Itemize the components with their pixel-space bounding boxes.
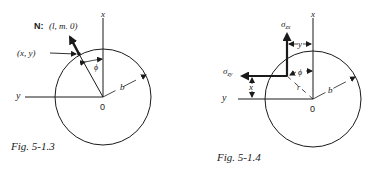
- sigma-zy-label: σzy: [223, 66, 233, 77]
- point-xy-label: (x, y): [17, 48, 35, 58]
- dimension-x-label: x: [248, 82, 253, 92]
- figure-caption-5-1-3: Fig. 5-1.3: [10, 140, 55, 152]
- figure-5-1-4: x y 0 ϕ r b y x σzx σzy: [221, 9, 361, 147]
- normal-label-value: (l, m. 0): [49, 21, 78, 31]
- radius-b-label: b: [328, 85, 333, 95]
- axis-y-label: y: [221, 92, 227, 103]
- origin-label: 0: [310, 104, 315, 114]
- boundary-point: [77, 52, 81, 56]
- angle-phi-arc: [85, 59, 102, 62]
- normal-vector-arrow: [70, 37, 79, 54]
- radius-b-dimension: [313, 77, 355, 99]
- normal-label-prefix: N:: [34, 21, 44, 31]
- radius-r-label: r: [297, 83, 301, 92]
- origin-label: 0: [100, 102, 105, 112]
- radius-b-label: b: [120, 82, 125, 92]
- radius-b-dimension: [103, 75, 146, 97]
- axis-y-label: y: [15, 90, 21, 101]
- angle-phi-label: ϕ: [94, 63, 98, 72]
- dimension-y-label: y: [297, 39, 302, 49]
- axis-x-label: x: [100, 9, 105, 19]
- angle-phi-arrow-left: [290, 72, 296, 75]
- figure-5-1-3: x y 0 ϕ b (x, y) N: (l, m. 0): [15, 9, 151, 145]
- angle-phi-label: ϕ: [298, 68, 302, 77]
- sigma-zx-label: σzx: [281, 19, 291, 30]
- axis-x-label: x: [310, 9, 315, 19]
- point-pointer-arrow: [50, 53, 76, 54]
- figure-caption-5-1-4: Fig. 5-1.4: [216, 151, 261, 163]
- diagram-canvas: x y 0 ϕ b (x, y) N: (l, m. 0) x y 0 ϕ r …: [0, 0, 377, 171]
